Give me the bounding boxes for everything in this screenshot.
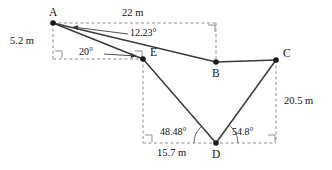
label-length-5-2m: 5.2 m xyxy=(10,36,34,47)
label-angle-12-23: 12.23° xyxy=(130,28,157,38)
right-angle-marker-below-A xyxy=(55,51,62,58)
arc-angle-at-D-left xyxy=(194,127,201,143)
point-label-D: D xyxy=(212,149,220,161)
point-label-B: B xyxy=(212,68,220,80)
point-label-A: A xyxy=(49,7,57,19)
segment-B-C xyxy=(216,60,276,62)
label-angle-54-8: 54.8° xyxy=(232,127,254,137)
right-angle-marker-bottom-left xyxy=(145,135,152,142)
right-angle-marker-top-right xyxy=(208,25,215,32)
vertex-dot-E xyxy=(140,56,146,62)
point-label-C: C xyxy=(283,48,291,60)
leader-20-arrowhead xyxy=(131,53,136,58)
label-angle-20: 20° xyxy=(79,47,93,57)
geometry-diagram: AEBCD22 m5.2 m20.5 m15.7 m12.23°20°48.48… xyxy=(0,0,332,170)
solid-segments xyxy=(53,23,276,143)
vertex-dot-A xyxy=(50,20,56,26)
label-length-15-7m: 15.7 m xyxy=(157,148,186,159)
vertex-dot-D xyxy=(213,140,219,146)
point-label-E: E xyxy=(150,47,157,59)
label-length-20-5m: 20.5 m xyxy=(284,96,313,107)
geometry-canvas xyxy=(0,0,332,170)
vertex-dot-B xyxy=(213,59,219,65)
right-angle-marker-bottom-right xyxy=(268,135,275,142)
label-angle-48-48: 48.48° xyxy=(160,127,187,137)
label-length-22m: 22 m xyxy=(122,8,143,19)
vertex-dot-C xyxy=(273,57,279,63)
